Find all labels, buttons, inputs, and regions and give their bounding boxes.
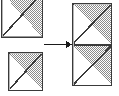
operand-tile-top [1,0,43,38]
tile-combination-diagram [0,0,119,96]
diagram-root [0,0,119,96]
result-cell-top [72,3,112,45]
result-rectangle [72,3,112,86]
operand-tile-bottom [8,52,43,91]
result-cell-bottom [72,45,112,86]
